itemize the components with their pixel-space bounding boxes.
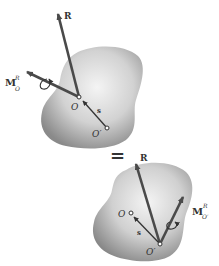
bottom-resultant-label: R [140, 153, 148, 163]
top-point-O-prime [105, 126, 109, 130]
bottom-position-vector-label: s [137, 228, 141, 237]
bottom-body-shape [93, 163, 192, 262]
top-moment-label-sup: R [14, 74, 20, 81]
top-position-vector-label: s [97, 106, 101, 115]
bottom-point-O-prime [158, 242, 162, 246]
bottom-moment-label-sup: R [202, 202, 208, 209]
top-resultant-label: R [64, 11, 72, 21]
rigid-body-equivalence-diagram: R M R O s O O′ = R M R O′ s O [0, 0, 219, 266]
bottom-point-O [129, 211, 133, 215]
top-point-O-label: O [71, 102, 79, 112]
top-point-O-prime-label: O′ [92, 129, 101, 139]
bottom-point-O-label: O [118, 209, 126, 219]
bottom-rigid-body: R M R O′ s O O′ [93, 153, 209, 261]
bottom-moment-label-sub: O′ [202, 213, 209, 220]
top-moment-label-sub: O [15, 85, 20, 92]
top-rigid-body: R M R O s O O′ [5, 11, 143, 148]
equals-sign: = [110, 145, 125, 166]
top-point-O [77, 95, 81, 99]
bottom-point-O-prime-label: O′ [146, 247, 155, 257]
